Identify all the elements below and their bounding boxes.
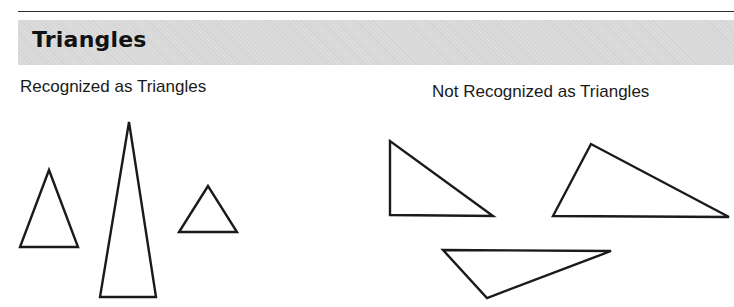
equilateral-triangle-small-icon <box>179 186 237 232</box>
recognized-triangles-group <box>20 122 237 297</box>
inverted-obtuse-triangle-icon <box>443 250 611 298</box>
right-triangle-icon <box>390 141 493 216</box>
triangles-figure <box>0 0 734 307</box>
tall-isosceles-triangle-icon <box>100 122 156 297</box>
not-recognized-triangles-group <box>390 141 729 298</box>
obtuse-triangle-wide-icon <box>553 144 729 217</box>
acute-triangle-small-icon <box>20 170 78 247</box>
